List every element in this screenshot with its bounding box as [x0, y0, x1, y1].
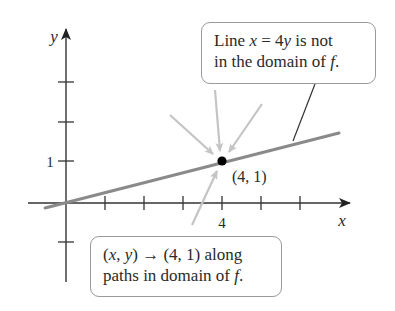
callout-top-line1: Line x = 4y is not — [214, 30, 375, 51]
y-tick-label-1: 1 — [46, 154, 54, 170]
callout-top-leader-line — [293, 84, 315, 141]
callout-paths-in-domain: (x, y) → (4, 1) along paths in domain of… — [90, 236, 282, 297]
callout-bottom-line1: (x, y) → (4, 1) along — [103, 244, 281, 265]
x-tick-label-4: 4 — [218, 215, 226, 231]
arrow-from-above — [215, 90, 220, 151]
callout-top-line2: in the domain of f. — [214, 51, 375, 72]
arrow-from-below — [192, 171, 217, 225]
point-4-1 — [217, 156, 226, 165]
point-label: (4, 1) — [232, 168, 267, 186]
callout-line-not-in-domain: Line x = 4y is not in the domain of f. — [201, 22, 376, 84]
math-x: x — [249, 31, 257, 50]
line-x-equals-4y — [45, 133, 339, 208]
x-axis-label: x — [337, 211, 346, 230]
callout-bottom-line2: paths in domain of f. — [103, 265, 281, 286]
arrow-from-upper-right — [229, 104, 262, 152]
arrow-from-upper-left — [170, 115, 213, 154]
right-arrow-icon: → — [138, 245, 164, 264]
y-axis-label: y — [48, 27, 58, 46]
y-axis: 1 y — [46, 27, 74, 282]
math-y: y — [284, 31, 292, 50]
